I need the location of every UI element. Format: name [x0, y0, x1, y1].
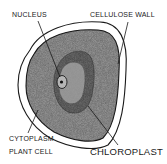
nucleolus [60, 80, 63, 83]
cytoplasm-label: CYTOPLASM [9, 135, 54, 142]
cellulose-wall-label: CELLULOSE WALL [90, 11, 155, 18]
nucleus-label: NUCLEUS [12, 11, 47, 18]
chloroplast-label: CHLOROPLAST [90, 146, 163, 157]
plant-cell-label: PLANT CELL [9, 148, 53, 155]
